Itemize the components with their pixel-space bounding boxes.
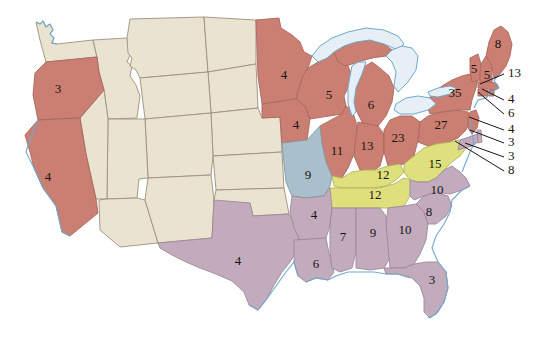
callout-label-DC: 3	[508, 148, 515, 163]
state-KS[interactable]	[213, 152, 284, 190]
state-DE[interactable]	[477, 130, 482, 143]
state-label-MO: 9	[305, 167, 312, 182]
state-label-CA: 4	[45, 169, 52, 184]
state-SD[interactable]	[208, 64, 258, 113]
electoral-map-container: 3444456911132327355581212151081039764 13…	[0, 0, 538, 346]
state-label-SC: 8	[426, 204, 433, 219]
callout-label-RI: 4	[508, 91, 515, 106]
state-ND[interactable]	[204, 17, 256, 72]
callout-label-MA: 13	[508, 65, 521, 80]
state-label-LA: 6	[313, 256, 320, 271]
callout-label-DE: 3	[508, 134, 515, 149]
callout-label-CT: 6	[508, 105, 515, 120]
state-WA[interactable]	[36, 21, 97, 62]
state-label-IN: 13	[361, 138, 374, 153]
leader-line-MD	[455, 141, 504, 171]
state-MD[interactable]	[458, 134, 478, 150]
state-WY[interactable]	[140, 72, 211, 119]
state-label-TX: 4	[235, 253, 242, 268]
us-electoral-map: 3444456911132327355581212151081039764 13…	[0, 0, 538, 346]
state-label-IL: 11	[331, 143, 344, 158]
state-label-KY: 12	[377, 167, 390, 182]
state-label-WI: 5	[326, 87, 333, 102]
state-MT[interactable]	[127, 17, 208, 78]
state-label-PA: 27	[435, 117, 449, 132]
state-UT[interactable]	[107, 119, 148, 199]
state-label-VA: 15	[429, 156, 442, 171]
state-label-MS: 7	[340, 229, 347, 244]
state-label-FL: 3	[429, 272, 436, 287]
state-NM[interactable]	[145, 175, 214, 243]
state-label-ME: 8	[495, 36, 502, 51]
state-CO[interactable]	[145, 113, 213, 178]
state-label-MN: 4	[281, 67, 288, 82]
state-label-TN: 12	[369, 187, 382, 202]
state-label-MI: 6	[368, 97, 375, 112]
state-label-NY: 35	[449, 85, 462, 100]
state-label-AR: 4	[311, 207, 318, 222]
state-label-OR: 3	[55, 81, 62, 96]
state-label-VT: 5	[471, 61, 478, 76]
callout-label-MD: 8	[508, 162, 515, 177]
state-label-GA: 10	[399, 222, 412, 237]
state-label-NC: 10	[431, 182, 444, 197]
state-label-OH: 23	[392, 130, 405, 145]
state-label-IA: 4	[293, 117, 300, 132]
state-label-AL: 9	[370, 225, 377, 240]
